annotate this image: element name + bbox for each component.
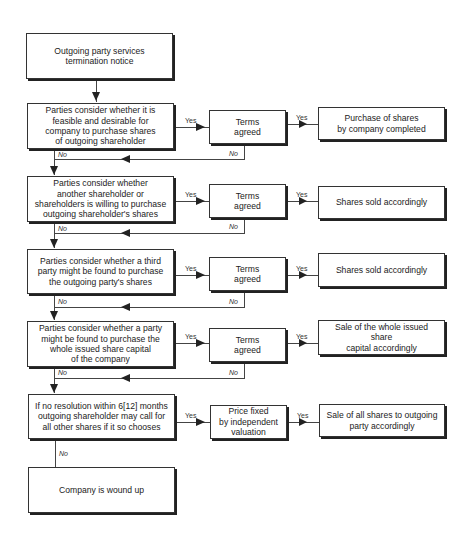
result-box-1: Purchase of shares by company completed: [318, 107, 445, 140]
decision-text-1: Parties consider whether it is feasible …: [45, 105, 155, 147]
arrowhead-right-icon: [196, 418, 205, 426]
no-label-d5: No: [59, 450, 68, 458]
result-box-4: Sale of the whole issued share capital a…: [318, 320, 445, 355]
end-text: Company is wound up: [59, 485, 144, 495]
arrowhead-right-icon: [196, 197, 205, 205]
yes-label-d2: Yes: [185, 191, 196, 199]
terms-text-4: Terms agreed: [234, 335, 261, 356]
result-text-5: Sale of all shares to outgoing party acc…: [327, 410, 438, 431]
arrowhead-left-icon: [121, 229, 130, 237]
yes-label-t1: Yes: [296, 114, 307, 122]
arrowhead-down-icon: [92, 92, 100, 101]
result-text-3: Shares sold accordingly: [336, 265, 427, 275]
no-label-t2: No: [229, 223, 238, 231]
yes-label-p5: Yes: [297, 412, 308, 420]
price-box-5: Price fixed by independent valuation: [210, 405, 287, 439]
yes-label-d3: Yes: [185, 265, 196, 273]
no-label-t1: No: [229, 150, 238, 158]
no-label-d4: No: [58, 369, 67, 377]
decision-box-1: Parties consider whether it is feasible …: [27, 103, 174, 149]
start-box: Outgoing party services termination noti…: [26, 33, 173, 79]
arrowhead-left-icon: [121, 303, 130, 311]
yes-label-t2: Yes: [296, 191, 307, 199]
decision-box-5: If no resolution within 6[12] months out…: [28, 394, 175, 439]
result-box-2: Shares sold accordingly: [318, 186, 445, 219]
result-text-2: Shares sold accordingly: [336, 197, 427, 207]
result-box-5: Sale of all shares to outgoing party acc…: [319, 404, 445, 437]
terms-box-3: Terms agreed: [209, 257, 286, 291]
decision-box-2: Parties consider whether another shareho…: [27, 176, 174, 222]
result-text-1: Purchase of shares by company completed: [337, 113, 425, 134]
yes-label-d4: Yes: [185, 333, 196, 341]
decision-box-4: Parties consider whether a party might b…: [27, 321, 174, 367]
no-label-t4: No: [229, 369, 238, 377]
arrowhead-down-icon: [50, 166, 58, 175]
arrowhead-left-icon: [121, 155, 130, 163]
yes-label-t4: Yes: [296, 333, 307, 341]
no-label-d3: No: [58, 298, 67, 306]
decision-text-4: Parties consider whether a party might b…: [39, 323, 162, 365]
no-label-d2: No: [58, 225, 67, 233]
decision-text-3: Parties consider whether a third party m…: [38, 256, 164, 287]
terms-box-1: Terms agreed: [209, 110, 286, 144]
terms-box-2: Terms agreed: [209, 184, 286, 218]
arrowhead-down-icon: [50, 311, 58, 320]
no-label-t3: No: [229, 298, 238, 306]
arrowhead-down-icon: [50, 384, 58, 393]
no-label-d1: No: [58, 151, 67, 159]
price-text-5: Price fixed by independent valuation: [219, 406, 278, 437]
decision-text-2: Parties consider whether another shareho…: [35, 178, 166, 220]
arrowhead-right-icon: [196, 339, 205, 347]
decision-box-3: Parties consider whether a third party m…: [27, 249, 174, 294]
yes-label-d1: Yes: [185, 117, 196, 125]
arrowhead-right-icon: [196, 271, 205, 279]
terms-box-4: Terms agreed: [209, 328, 286, 362]
result-box-3: Shares sold accordingly: [318, 253, 445, 287]
arrowhead-left-icon: [121, 374, 130, 382]
terms-text-2: Terms agreed: [234, 191, 261, 212]
terms-text-1: Terms agreed: [234, 117, 261, 138]
yes-label-d5: Yes: [185, 412, 196, 420]
terms-text-3: Terms agreed: [234, 264, 261, 285]
decision-text-5: If no resolution within 6[12] months out…: [35, 401, 168, 432]
result-text-4: Sale of the whole issued share capital a…: [323, 322, 440, 353]
end-box: Company is wound up: [28, 467, 175, 513]
arrowhead-down-icon: [50, 239, 58, 248]
arrowhead-right-icon: [196, 123, 205, 131]
start-text: Outgoing party services termination noti…: [54, 46, 144, 67]
yes-label-t3: Yes: [296, 265, 307, 273]
